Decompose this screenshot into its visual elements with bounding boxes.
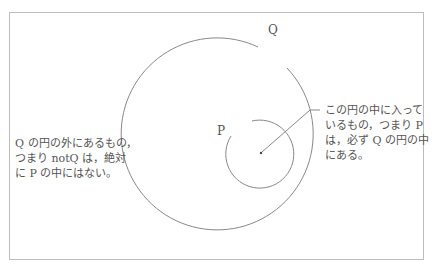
- center-dot: [260, 152, 262, 154]
- label-p: P: [217, 124, 225, 138]
- annotation-left-line-1: Q の円の外にあるもの，: [15, 136, 137, 151]
- annotation-right: この円の中に入って いるもの，つまり P は，必ず Q の円の中 にある。: [325, 103, 429, 163]
- annotation-right-line-4: にある。: [325, 148, 429, 163]
- annotation-left-line-2: つまり notQ は，絶対: [15, 151, 137, 166]
- annotation-left-line-3: に P の中にはない。: [15, 166, 137, 181]
- annotation-right-line-1: この円の中に入って: [325, 103, 429, 118]
- annotation-right-line-2: いるもの，つまり P: [325, 118, 429, 133]
- annotation-right-line-3: は，必ず Q の円の中: [325, 133, 429, 148]
- label-q: Q: [268, 23, 278, 37]
- annotation-left: Q の円の外にあるもの， つまり notQ は，絶対 に P の中にはない。: [15, 136, 137, 181]
- circle-p: [226, 120, 294, 188]
